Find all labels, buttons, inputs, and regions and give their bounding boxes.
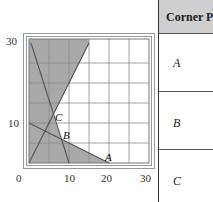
graph-canvas: A B C	[0, 0, 158, 202]
x-tick-20: 20	[101, 173, 112, 184]
x-tick-30: 30	[140, 173, 151, 184]
feasible-region-graph: A B C 30 10 0 10 20 30	[0, 0, 158, 202]
y-tick-30: 30	[6, 36, 17, 47]
x-tick-0: 0	[16, 173, 22, 184]
row-label-c: C	[173, 174, 181, 189]
corner-points-table: Corner P A B C	[158, 0, 213, 202]
table-header: Corner P	[159, 0, 213, 34]
row-label-b: B	[173, 116, 180, 131]
y-tick-10: 10	[8, 118, 19, 129]
point-a-label: A	[104, 151, 112, 163]
header-corner-point: Corner P	[166, 10, 213, 25]
point-b-label: B	[63, 129, 70, 141]
x-tick-10: 10	[64, 173, 75, 184]
table-row: B	[159, 92, 213, 150]
row-label-a: A	[173, 56, 180, 71]
table-row: A	[159, 34, 213, 92]
table-row: C	[159, 150, 213, 202]
point-c-label: C	[55, 111, 63, 123]
